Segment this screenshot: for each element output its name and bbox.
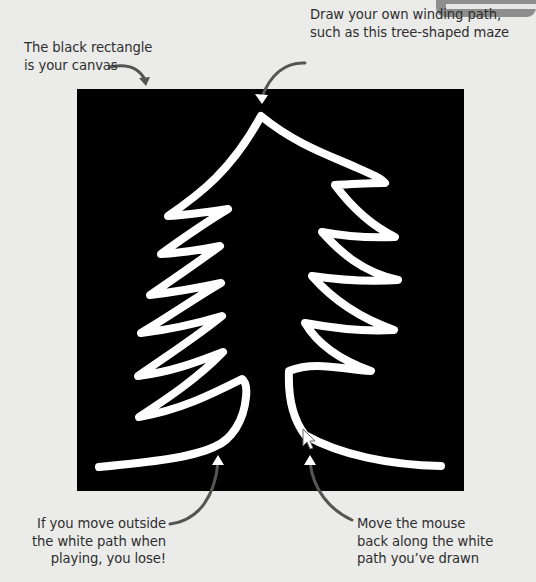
annotation-line: The black rectangle (24, 39, 152, 57)
annotation-line: the white path when (30, 533, 166, 551)
arrow-to-path-start (262, 63, 305, 97)
arrow-to-path-end (170, 462, 218, 524)
annotation-line: is your canvas (24, 57, 152, 75)
path-annotation: Draw your own winding path, such as this… (310, 6, 506, 41)
annotation-line: Draw your own winding path, (310, 6, 506, 24)
arrow-to-cursor (310, 462, 352, 520)
mouse-pointer-icon (303, 429, 315, 449)
lose-annotation: If you move outside the white path when … (30, 515, 166, 568)
arrow-head-mouse (304, 455, 316, 465)
annotation-line: path you’ve drawn (357, 550, 493, 568)
annotation-line: such as this tree-shaped maze (310, 24, 506, 42)
annotation-line: If you move outside (30, 515, 166, 533)
arrow-head-canvas (139, 77, 150, 86)
annotation-line: Move the mouse (357, 515, 493, 533)
tree-maze-path (99, 116, 441, 467)
annotation-line: playing, you lose! (30, 550, 166, 568)
annotation-line: back along the white (357, 533, 493, 551)
arrow-head-path (255, 94, 268, 104)
canvas-annotation: The black rectangle is your canvas (24, 39, 152, 74)
mouse-annotation: Move the mouse back along the white path… (357, 515, 493, 568)
arrow-head-lose (212, 455, 224, 465)
